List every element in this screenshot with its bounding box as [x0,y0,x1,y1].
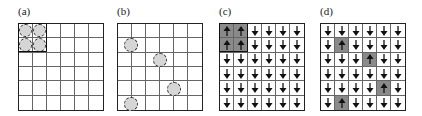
lattice-cell [349,81,363,95]
arrow-down-icon [352,40,360,50]
lattice-cell [248,38,262,52]
lattice-cell [377,53,391,67]
lattice-cell [363,96,377,110]
arrow-down-icon [293,83,301,93]
arrow-down-icon [293,69,301,79]
lattice-cell [262,81,276,95]
arrow-down-icon [324,69,332,79]
lattice-cell [19,67,33,81]
lattice-cell [146,96,160,110]
lattice-cell [132,24,146,38]
arrow-down-icon [352,26,360,36]
arrow-down-icon [394,54,402,64]
arrow-down-icon [251,26,259,36]
arrow-up-icon [380,83,388,93]
lattice-cell [61,53,75,67]
lattice-cell [146,53,160,67]
lattice-cell [146,38,160,52]
lattice-cell [75,53,89,67]
arrow-down-icon [338,69,346,79]
arrow-down-icon [380,54,388,64]
arrow-down-icon [265,40,273,50]
arrow-down-icon [324,40,332,50]
lattice-cell [75,24,89,38]
lattice-cell [188,67,202,81]
arrow-down-icon [293,26,301,36]
lattice-grid-a [18,23,104,111]
arrow-down-icon [279,54,287,64]
lattice-cell [349,24,363,38]
lattice-cell [61,81,75,95]
lattice-cell [47,24,61,38]
lattice-cell [248,67,262,81]
lattice-cell [349,53,363,67]
arrow-down-icon [237,69,245,79]
arrow-down-icon [352,69,360,79]
lattice-cell [276,81,290,95]
panel-d-label: (d) [320,5,333,17]
lattice-cell [33,38,47,52]
lattice-cell [118,24,132,38]
arrow-up-icon [237,26,245,36]
lattice-cell [220,67,234,81]
lattice-cell [290,96,304,110]
lattice-cell [234,24,248,38]
arrow-down-icon [380,69,388,79]
lattice-cell [188,38,202,52]
arrow-down-icon [366,83,374,93]
lattice-cell [61,96,75,110]
lattice-cell [349,96,363,110]
arrow-down-icon [223,98,231,108]
lattice-cell [363,24,377,38]
arrow-down-icon [394,98,402,108]
arrow-down-icon [324,26,332,36]
lattice-cell [262,96,276,110]
lattice-cell [234,67,248,81]
lattice-cell [118,81,132,95]
lattice-cell [391,53,405,67]
lattice-cell [391,96,405,110]
lattice-cell [248,24,262,38]
circle-icon [33,38,46,51]
arrow-down-icon [251,98,259,108]
arrow-down-icon [324,54,332,64]
lattice-cell [75,81,89,95]
arrow-down-icon [293,98,301,108]
lattice-cell [47,53,61,67]
arrow-down-icon [279,40,287,50]
arrow-down-icon [394,40,402,50]
arrow-down-icon [223,83,231,93]
lattice-cell [160,81,174,95]
arrow-down-icon [251,69,259,79]
circle-icon [19,24,32,37]
lattice-cell [377,81,391,95]
lattice-cell [335,96,349,110]
lattice-cell [391,81,405,95]
lattice-cell [276,96,290,110]
lattice-cell [146,67,160,81]
lattice-cell [377,96,391,110]
lattice-cell [132,53,146,67]
lattice-cell [61,24,75,38]
lattice-cell [321,24,335,38]
arrow-down-icon [237,98,245,108]
lattice-cell [19,53,33,67]
lattice-cell [89,24,103,38]
arrow-down-icon [279,26,287,36]
lattice-cell [188,81,202,95]
lattice-cell [89,96,103,110]
lattice-cell [160,53,174,67]
arrow-up-icon [223,26,231,36]
lattice-cell [220,24,234,38]
lattice-cell [349,67,363,81]
arrow-down-icon [324,98,332,108]
lattice-cell [19,96,33,110]
lattice-cell [321,67,335,81]
arrow-down-icon [223,69,231,79]
lattice-cell [188,96,202,110]
arrow-down-icon [394,69,402,79]
lattice-cell [290,81,304,95]
lattice-cell [276,53,290,67]
lattice-cell [276,24,290,38]
lattice-cell [33,81,47,95]
